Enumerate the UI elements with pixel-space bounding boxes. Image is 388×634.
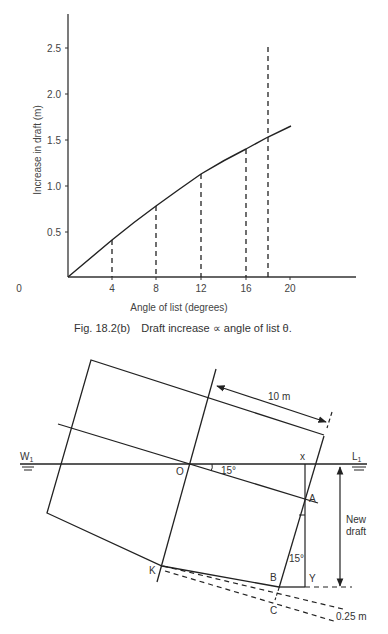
ship-centreline [157,369,216,582]
label-new-draft-2: draft [346,526,366,537]
angle-arc-o [211,464,212,471]
label-o: O [176,466,184,477]
label-width-dim: 10 m [268,391,290,402]
ship-side-right-extension [327,412,332,428]
list-geometry-diagram: W1 L1 O x A B C K Y 15° 15° 10 m New dra… [0,0,388,634]
label-x: x [300,451,305,462]
label-angle-top: 15° [221,465,236,476]
label-b: B [270,572,277,583]
label-c: C [270,605,277,616]
label-l1: L1 [352,451,362,463]
label-k: K [149,565,156,576]
water-symbol-left [22,467,34,470]
label-y: Y [309,573,316,584]
label-angle-side: 15° [289,553,304,564]
label-w1: W1 [20,451,33,463]
label-a: A [309,493,316,504]
label-new-draft-1: New [346,514,367,525]
water-symbol-right [352,467,366,470]
label-offset-dim: 0.25 m [336,611,367,622]
